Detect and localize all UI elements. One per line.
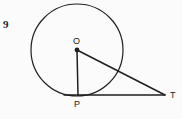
geometry-figure: 9 O P T: [0, 0, 182, 119]
point-label-o: O: [73, 37, 80, 46]
point-label-p: P: [74, 100, 80, 109]
point-label-t: T: [170, 91, 176, 100]
segment-op-radius: [77, 50, 78, 95]
segment-ot-hypotenuse: [77, 50, 165, 95]
geometry-diagram-svg: [0, 0, 182, 119]
center-point-dot: [75, 48, 80, 53]
